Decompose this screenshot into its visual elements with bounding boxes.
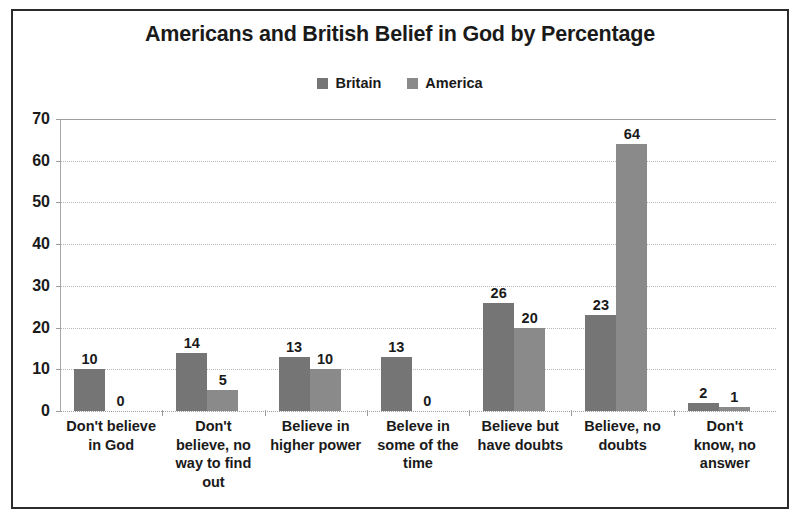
gridline-40	[60, 244, 776, 245]
bar-america-4[interactable]: 20	[514, 328, 545, 411]
x-axis-label-line: Don't believe	[60, 417, 162, 436]
bar-value-label: 23	[593, 297, 609, 313]
bar-america-5[interactable]: 64	[616, 144, 647, 411]
legend-entry-america[interactable]: America	[407, 75, 482, 91]
y-axis-label-30: 30	[32, 277, 50, 295]
bar-value-label: 13	[388, 339, 404, 355]
y-axis-label-0: 0	[41, 402, 50, 420]
x-axis-category-labels: Don't believein GodDon'tbelieve, noway t…	[60, 417, 776, 505]
x-axis-label-6: Don'tknow, noanswer	[674, 417, 776, 473]
y-axis-line	[60, 119, 61, 411]
y-axis-tick-50	[56, 202, 61, 203]
chart-title: Americans and British Belief in God by P…	[13, 22, 787, 47]
legend-swatch-icon	[407, 78, 418, 89]
x-axis-label-4: Believe buthave doubts	[469, 417, 571, 454]
bar-value-label: 10	[81, 351, 97, 367]
x-axis-label-line: believe, no	[162, 436, 264, 455]
y-axis-tick-60	[56, 161, 61, 162]
legend-label: Britain	[335, 75, 381, 91]
x-axis-label-line: some of the	[367, 436, 469, 455]
bar-britain-4[interactable]: 26	[483, 303, 514, 411]
x-axis-label-line: in God	[60, 436, 162, 455]
y-axis-label-70: 70	[32, 110, 50, 128]
x-axis-label-line: Believe but	[469, 417, 571, 436]
legend-entry-britain[interactable]: Britain	[317, 75, 381, 91]
gridline-10	[60, 369, 776, 370]
chart-container: Americans and British Belief in God by P…	[11, 9, 789, 509]
bar-america-6[interactable]: 1	[719, 407, 750, 411]
bar-britain-1[interactable]: 14	[176, 353, 207, 411]
gridline-20	[60, 328, 776, 329]
x-axis-label-line: know, no	[674, 436, 776, 455]
x-axis-label-2: Believe inhigher power	[265, 417, 367, 454]
y-axis-label-20: 20	[32, 319, 50, 337]
x-axis-label-line: Beleve in	[367, 417, 469, 436]
gridline-50	[60, 202, 776, 203]
x-axis-label-line: Believe in	[265, 417, 367, 436]
x-axis-label-0: Don't believein God	[60, 417, 162, 454]
y-axis-tick-10	[56, 369, 61, 370]
x-axis-label-line: answer	[674, 454, 776, 473]
x-axis-label-3: Beleve insome of thetime	[367, 417, 469, 473]
y-axis-label-50: 50	[32, 193, 50, 211]
bar-value-label: 13	[286, 339, 302, 355]
y-axis-tick-70	[56, 119, 61, 120]
bar-value-label: 5	[219, 372, 227, 388]
x-axis-label-line: out	[162, 473, 264, 492]
x-axis-tick	[469, 410, 470, 416]
x-axis-label-5: Believe, nodoubts	[571, 417, 673, 454]
x-axis-label-line: way to find	[162, 454, 264, 473]
bar-value-label: 0	[116, 393, 124, 409]
bar-value-label: 10	[317, 351, 333, 367]
bar-britain-6[interactable]: 2	[688, 403, 719, 411]
x-axis-tick	[571, 410, 572, 416]
y-axis-tick-0	[56, 411, 61, 412]
x-axis-label-line: doubts	[571, 436, 673, 455]
y-axis-label-60: 60	[32, 152, 50, 170]
gridline-60	[60, 161, 776, 162]
plot-inner: 01020304050607010014513101302620236421	[60, 119, 776, 411]
x-axis-label-1: Don'tbelieve, noway to findout	[162, 417, 264, 491]
gridline-0	[60, 411, 776, 412]
bar-america-1[interactable]: 5	[207, 390, 238, 411]
y-axis-label-10: 10	[32, 360, 50, 378]
x-axis-label-line: time	[367, 454, 469, 473]
bar-value-label: 20	[522, 310, 538, 326]
x-axis-tick	[674, 410, 675, 416]
x-axis-label-line: Don't	[674, 417, 776, 436]
legend-label: America	[425, 75, 482, 91]
bar-britain-2[interactable]: 13	[279, 357, 310, 411]
bar-value-label: 26	[491, 285, 507, 301]
x-axis-tick	[367, 410, 368, 416]
y-axis-tick-30	[56, 286, 61, 287]
x-axis-label-line: Don't	[162, 417, 264, 436]
x-axis-tick	[162, 410, 163, 416]
bar-britain-0[interactable]: 10	[74, 369, 105, 411]
y-axis-tick-40	[56, 244, 61, 245]
bar-value-label: 14	[184, 335, 200, 351]
bar-value-label: 2	[699, 385, 707, 401]
legend-swatch-icon	[317, 78, 328, 89]
bar-value-label: 64	[624, 126, 640, 142]
bar-britain-3[interactable]: 13	[381, 357, 412, 411]
y-axis-label-40: 40	[32, 235, 50, 253]
x-axis-label-line: higher power	[265, 436, 367, 455]
x-axis-tick	[265, 410, 266, 416]
bar-value-label: 0	[423, 393, 431, 409]
x-axis-label-line: have doubts	[469, 436, 571, 455]
gridline-30	[60, 286, 776, 287]
bar-america-2[interactable]: 10	[310, 369, 341, 411]
y-axis-tick-20	[56, 328, 61, 329]
plot-area: 01020304050607010014513101302620236421	[60, 119, 776, 411]
gridline-70	[60, 119, 776, 120]
chart-legend: BritainAmerica	[13, 75, 787, 91]
bar-britain-5[interactable]: 23	[585, 315, 616, 411]
x-axis-label-line: Believe, no	[571, 417, 673, 436]
bar-value-label: 1	[730, 389, 738, 405]
